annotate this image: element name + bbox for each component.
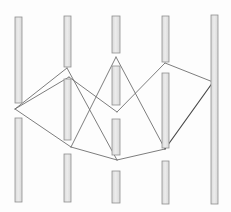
fence-3-bar-2 (112, 66, 120, 105)
edge-F-G (117, 149, 165, 160)
figure-canvas (0, 0, 231, 212)
fence-2-bar-3 (64, 154, 71, 202)
edge-B1-F (67, 68, 117, 160)
edge-E-F (71, 147, 117, 160)
fence-3-bar-1 (112, 16, 120, 53)
fence-3-bar-4 (112, 171, 120, 203)
fence-3-bar-3 (112, 119, 120, 155)
fence-5-bar-1 (211, 15, 218, 204)
fence-1-bar-1 (15, 17, 22, 103)
edge-G-H (165, 82, 213, 149)
edge-E-C (71, 57, 116, 147)
fence-tour-diagram (0, 0, 231, 212)
fence-4-bar-2 (162, 73, 169, 148)
fence-4-bar-1 (162, 16, 169, 62)
fence-1-bar-2 (15, 118, 22, 202)
edge-B2-D (69, 77, 117, 112)
edge-A-B1 (15, 68, 67, 109)
edge-A-E (15, 109, 71, 147)
fence-4-bar-3 (162, 161, 169, 204)
fence-2-bar-1 (64, 16, 71, 67)
fence-2-bar-2 (64, 79, 71, 140)
edge-A-B2 (15, 77, 69, 109)
edge-I-H (165, 63, 213, 82)
